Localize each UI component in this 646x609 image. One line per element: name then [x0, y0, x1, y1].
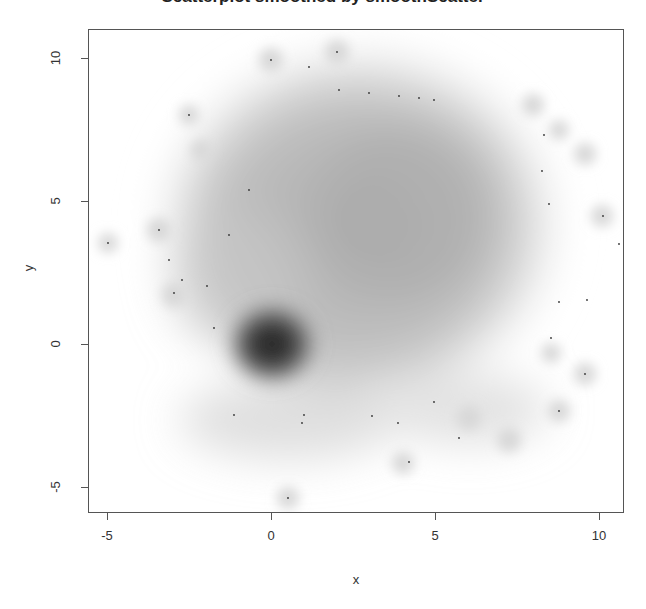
x-tick — [435, 513, 436, 520]
y-tick-label: 5 — [48, 197, 63, 204]
chart-title: Scatterplot smoothed by smoothScatter — [0, 0, 646, 7]
x-tick-label: 10 — [592, 528, 606, 543]
y-tick — [81, 487, 88, 488]
x-tick-label: 5 — [431, 528, 438, 543]
y-tick — [81, 58, 88, 59]
density-heatmap — [89, 30, 624, 513]
y-tick-label: 10 — [48, 51, 63, 65]
y-tick-label: -5 — [48, 481, 63, 493]
x-axis-label: x — [353, 572, 360, 587]
y-tick — [81, 201, 88, 202]
y-tick — [81, 344, 88, 345]
y-tick-label: 0 — [48, 340, 63, 347]
x-tick-label: 0 — [267, 528, 274, 543]
x-tick — [271, 513, 272, 520]
y-axis-label: y — [21, 265, 36, 272]
plot-area — [88, 29, 624, 513]
x-tick — [599, 513, 600, 520]
x-tick — [107, 513, 108, 520]
x-tick-label: -5 — [101, 528, 113, 543]
